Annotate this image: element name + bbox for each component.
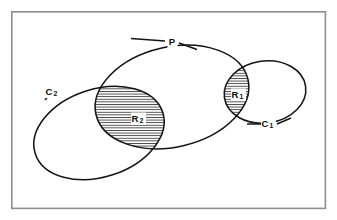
label-R2: R 2 — [131, 113, 146, 126]
label-R1-text: R — [232, 89, 239, 100]
label-R2-subscript: 2 — [140, 117, 144, 124]
diagram-canvas: P C 2 C 1 R 2 R 1 — [0, 0, 337, 220]
label-P: P — [168, 35, 178, 48]
label-R1-subscript: 1 — [240, 93, 244, 100]
label-C1: C 1 — [261, 117, 276, 130]
set-intersection-diagram: P C 2 C 1 R 2 R 1 — [0, 0, 337, 220]
label-C2-subscript: 2 — [54, 90, 58, 97]
label-C1-text: C — [262, 118, 269, 129]
label-C2-text: C — [46, 86, 53, 97]
label-C2: C 2 — [46, 85, 60, 98]
label-R2-text: R — [132, 113, 139, 124]
label-R1: R 1 — [231, 89, 246, 102]
label-P-text: P — [169, 36, 176, 47]
label-C1-subscript: 1 — [270, 122, 274, 129]
